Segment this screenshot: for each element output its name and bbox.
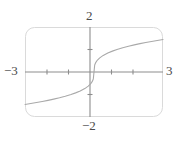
x-min-label: −3 <box>4 64 18 77</box>
x-max-label: 3 <box>166 64 173 77</box>
y-max-label: 2 <box>86 9 93 22</box>
graph-figure: 2 −2 −3 3 <box>0 0 179 141</box>
y-min-label: −2 <box>82 119 96 132</box>
